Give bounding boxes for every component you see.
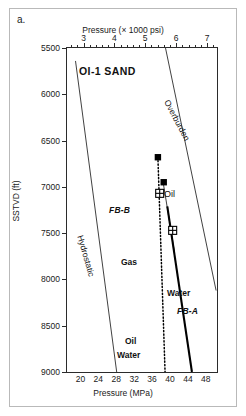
tick-label-bottom: 36 — [147, 374, 156, 384]
line-hydrostatic — [76, 61, 117, 372]
marker-open-square-cross — [169, 226, 177, 234]
figure-panel: a. Pressure (× 1000 psi) Pressure (MPa) … — [0, 0, 246, 416]
plot-graphics — [67, 48, 217, 372]
marker-filled-square — [155, 154, 161, 160]
oil-bottom-label: Oil — [125, 336, 136, 346]
tick-label-bottom: 28 — [112, 374, 121, 384]
tick-label-bottom: 48 — [201, 374, 210, 384]
plot-area: OI-1 SAND Overburden Hydrostatic Oil Gas… — [66, 47, 218, 373]
fb-a-label: FB-A — [177, 306, 198, 316]
oil-line-label: Oil — [164, 189, 175, 199]
plot-inner: OI-1 SAND Overburden Hydrostatic Oil Gas… — [67, 48, 217, 372]
tick-label-left: 9000 — [14, 367, 60, 377]
fb-b-label: FB-B — [109, 205, 130, 215]
tick-label-top: 7 — [205, 33, 210, 43]
water-bottom-label: Water — [117, 350, 140, 360]
tick-label-top: 3 — [81, 33, 86, 43]
tick-label-left: 5500 — [14, 43, 60, 53]
water-line-label: Water — [167, 288, 190, 298]
tick-label-bottom: 40 — [165, 374, 174, 384]
tick-label-left: 8500 — [14, 321, 60, 331]
tick-label-left: 7500 — [14, 228, 60, 238]
marker-filled-square — [161, 179, 167, 185]
gas-line-label: Gas — [121, 257, 137, 267]
sand-unit-label: OI-1 SAND — [79, 65, 136, 77]
tick-label-left: 6000 — [14, 89, 60, 99]
data-lines — [76, 48, 217, 372]
tick-label-bottom: 20 — [76, 374, 85, 384]
panel-letter: a. — [17, 14, 25, 25]
tick-label-top: 5 — [143, 33, 148, 43]
tick-label-bottom: 44 — [183, 374, 192, 384]
tick-label-left: 7000 — [14, 182, 60, 192]
tick-label-left: 8000 — [14, 274, 60, 284]
bottom-axis-title: Pressure (MPa) — [0, 388, 246, 398]
tick-label-top: 6 — [174, 33, 179, 43]
tick-label-bottom: 32 — [129, 374, 138, 384]
tick-label-bottom: 24 — [94, 374, 103, 384]
tick-label-top: 4 — [112, 33, 117, 43]
marker-open-square-cross — [156, 189, 164, 197]
tick-label-left: 6500 — [14, 136, 60, 146]
line-overburden — [166, 48, 217, 291]
